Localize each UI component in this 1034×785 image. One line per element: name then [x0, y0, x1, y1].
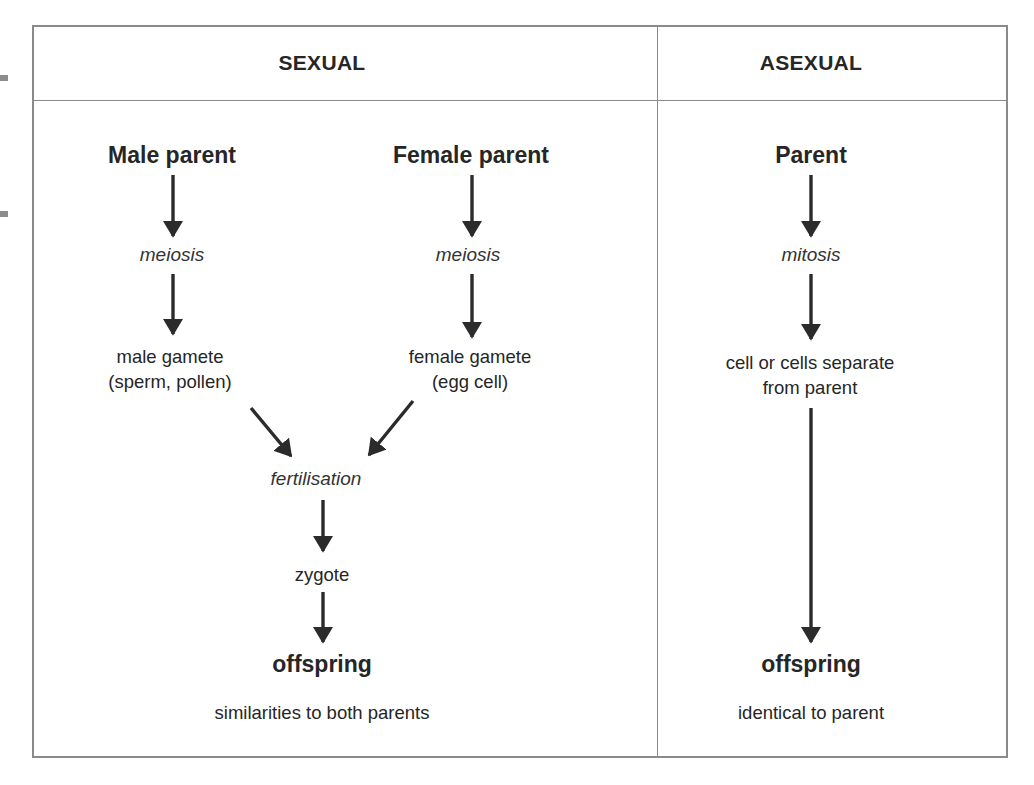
arrow-female-gamete-to-fertilisation	[369, 401, 413, 455]
arrow-male-gamete-to-fertilisation	[251, 408, 291, 456]
flow-arrows	[0, 0, 1034, 785]
